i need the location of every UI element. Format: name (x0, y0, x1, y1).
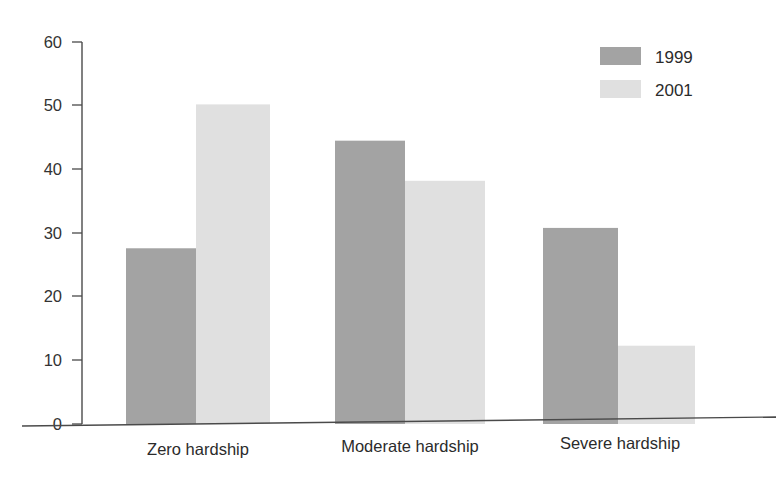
y-axis-tick-labels: 60 50 40 30 20 10 0 (44, 33, 62, 433)
bar-1999-zero-hardship (126, 248, 196, 424)
bar-1999-severe-hardship (543, 228, 618, 424)
legend-swatch-1999 (600, 47, 641, 65)
x-category-label-1: Moderate hardship (341, 437, 479, 455)
y-tick-label: 0 (53, 415, 62, 433)
x-category-label-2: Severe hardship (560, 434, 680, 452)
bar-group-severe-hardship (543, 228, 695, 424)
bar-group-zero-hardship (126, 104, 270, 424)
bar-2001-moderate-hardship (405, 181, 485, 424)
legend-label-2001: 2001 (655, 81, 693, 100)
y-tick-label: 40 (44, 160, 62, 178)
bar-1999-moderate-hardship (335, 141, 405, 424)
legend-label-1999: 1999 (655, 48, 693, 67)
bar-group-moderate-hardship (335, 141, 485, 424)
chart-canvas: 60 50 40 30 20 10 0 Zero hardship M (0, 0, 782, 482)
chart-legend: 1999 2001 (600, 47, 693, 100)
bar-chart-figure: 60 50 40 30 20 10 0 Zero hardship M (0, 0, 782, 482)
y-tick-label: 20 (44, 287, 62, 305)
y-tick-label: 50 (44, 96, 62, 114)
x-category-label-0: Zero hardship (147, 440, 249, 458)
y-axis-ticks (72, 42, 82, 424)
legend-swatch-2001 (600, 80, 641, 98)
y-tick-label: 10 (44, 351, 62, 369)
y-tick-label: 60 (44, 33, 62, 51)
bar-2001-severe-hardship (618, 346, 695, 424)
y-tick-label: 30 (44, 224, 62, 242)
x-axis-category-labels: Zero hardship Moderate hardship Severe h… (147, 434, 680, 458)
bar-2001-zero-hardship (196, 104, 270, 424)
